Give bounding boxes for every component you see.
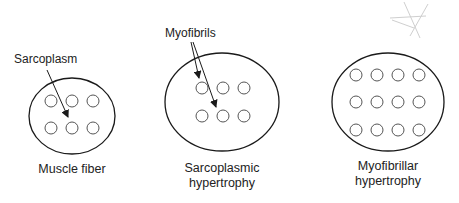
sarcoplasmic-hypertrophy-caption: Sarcoplasmic hypertrophy	[172, 161, 272, 191]
caption-line: Myofibrillar	[338, 159, 438, 174]
myofibrils-arrow-2	[193, 42, 216, 107]
sarcoplasm-label: Sarcoplasm	[14, 52, 77, 66]
caption-line: hypertrophy	[338, 174, 438, 189]
myofibrillar-hypertrophy-caption: Myofibrillar hypertrophy	[338, 159, 438, 189]
myofibril	[196, 82, 208, 94]
myofibril	[350, 96, 362, 108]
sarcoplasm-arrow	[47, 70, 68, 117]
myofibril	[392, 69, 404, 81]
myofibril	[217, 82, 229, 94]
myofibril	[217, 110, 229, 122]
myofibril	[66, 122, 78, 134]
myofibril	[413, 69, 425, 81]
watermark-scribble-icon	[390, 2, 428, 38]
caption-line: hypertrophy	[172, 176, 272, 191]
myofibril	[392, 96, 404, 108]
myofibril	[87, 122, 99, 134]
sarcoplasmic-fiber-outline	[165, 53, 279, 151]
myofibril	[413, 124, 425, 136]
caption-line: Muscle fiber	[22, 162, 122, 177]
sarcoplasmic-hypertrophy-panel	[165, 42, 279, 151]
muscle-fiber-panel	[29, 70, 115, 154]
myofibril	[371, 124, 383, 136]
myofibrillar-hypertrophy-panel	[332, 53, 444, 151]
myofibril-grid	[196, 82, 250, 122]
myofibril	[350, 124, 362, 136]
myofibril	[392, 124, 404, 136]
myofibril	[66, 95, 78, 107]
myofibril	[350, 69, 362, 81]
myofibrillar-fiber-outline	[332, 53, 444, 151]
myofibril	[45, 122, 57, 134]
myofibril	[45, 95, 57, 107]
myofibril	[371, 69, 383, 81]
myofibrils-label: Myofibrils	[165, 26, 216, 40]
myofibril-grid	[45, 95, 99, 134]
caption-line: Sarcoplasmic	[172, 161, 272, 176]
myofibril	[371, 96, 383, 108]
muscle-fiber-caption: Muscle fiber	[22, 162, 122, 177]
myofibril	[413, 96, 425, 108]
myofibril	[238, 82, 250, 94]
hypertrophy-diagram: Sarcoplasm Myofibrils Muscle fiber Sarco…	[0, 0, 459, 203]
myofibril-grid	[350, 69, 425, 136]
myofibril	[196, 110, 208, 122]
myofibril	[87, 95, 99, 107]
muscle-fiber-outline	[29, 78, 115, 154]
myofibril	[238, 110, 250, 122]
